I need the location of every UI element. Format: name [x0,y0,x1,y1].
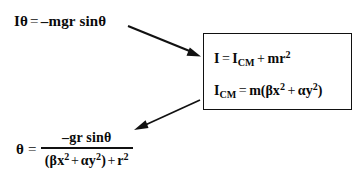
arrow-box-to-result [134,100,200,130]
pat-relation: = [219,51,232,66]
pat-operator: + [255,51,268,66]
result-lhs: θ [16,142,26,157]
result-fraction: –gr sinθ (βx2+αy2)+r2 [41,130,133,170]
den-term2-base: αy [81,153,96,168]
den-operator-2: + [106,153,117,168]
den-term3-exponent: 2 [124,151,129,162]
pat-term2-base: mr [268,51,286,66]
center-of-mass-moment-of-inertia: ICM=m(βx2+αy2) [214,82,322,100]
arrow-motion-to-box [128,26,201,57]
substitution-box: I=ICM+mr2 ICM=m(βx2+αy2) [203,33,352,110]
angular-acceleration-result: θ= –gr sinθ (βx2+αy2)+r2 [16,130,133,170]
pat-term1-subscript: CM [238,57,255,68]
figure-canvas: Iθ=–mgr sinθ I=ICM+mr2 ICM=m(βx2+αy2) θ=… [0,0,362,189]
icm-term2-base: αy [298,83,313,98]
den-operator-1: + [70,153,81,168]
icm-rhs-suffix: ) [318,83,323,98]
parallel-axis-theorem: I=ICM+mr2 [214,50,290,68]
den-term1-exponent: 2 [64,151,69,162]
equation-of-motion: Iθ=–mgr sinθ [14,14,106,29]
eom-relation: = [28,13,41,29]
eom-lhs-angle: θ [20,13,28,29]
result-numerator: –gr sinθ [56,130,118,147]
den-term1-base: βx [50,153,65,168]
result-relation: = [26,142,41,157]
icm-operator: + [285,83,298,98]
icm-lhs-subscript: CM [219,89,236,100]
icm-relation: = [236,83,249,98]
icm-term1-base: βx [265,83,279,98]
icm-rhs-prefix: m( [249,83,265,98]
eom-rhs: –mgr sinθ [41,13,107,29]
pat-term2-exponent: 2 [285,49,290,60]
result-denominator: (βx2+αy2)+r2 [41,149,133,170]
